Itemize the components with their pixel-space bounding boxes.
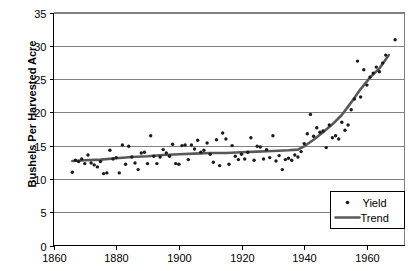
data-point	[325, 146, 328, 149]
data-point	[249, 136, 252, 139]
legend-label-yield: Yield	[363, 197, 387, 209]
data-point	[243, 157, 246, 160]
gridlines-group	[54, 14, 405, 213]
data-point	[111, 157, 114, 160]
data-point	[108, 149, 111, 152]
data-point	[359, 95, 362, 98]
y-tick-group: 05101520253035	[34, 8, 53, 253]
data-point	[346, 123, 349, 126]
data-point	[281, 168, 284, 171]
y-tick-label-20: 20	[34, 107, 46, 119]
data-point	[393, 38, 396, 41]
data-point	[356, 59, 359, 62]
y-tick-label-30: 30	[34, 41, 46, 53]
data-point	[133, 161, 136, 164]
data-point	[240, 153, 243, 156]
data-point	[353, 97, 356, 100]
data-point	[246, 151, 249, 154]
data-point	[152, 155, 155, 158]
data-point	[224, 137, 227, 140]
data-point	[227, 163, 230, 166]
data-point	[212, 161, 215, 164]
data-point	[237, 158, 240, 161]
data-point	[118, 171, 121, 174]
data-point	[143, 151, 146, 154]
data-point	[190, 143, 193, 146]
data-point	[174, 162, 177, 165]
data-point	[312, 135, 315, 138]
data-point	[375, 65, 378, 68]
data-point	[299, 150, 302, 153]
data-point	[158, 155, 161, 158]
data-point	[136, 168, 139, 171]
data-point	[290, 159, 293, 162]
data-point	[180, 144, 183, 147]
data-point	[328, 123, 331, 126]
data-point	[96, 165, 99, 168]
data-point	[268, 156, 271, 159]
data-point	[350, 108, 353, 111]
data-point	[124, 163, 127, 166]
data-point	[102, 172, 105, 175]
data-point	[77, 160, 80, 163]
y-tick-label-15: 15	[34, 141, 46, 153]
data-point	[86, 153, 89, 156]
data-point	[274, 159, 277, 162]
data-point	[74, 159, 77, 162]
data-point	[168, 155, 171, 158]
data-point	[105, 171, 108, 174]
data-point	[381, 61, 384, 64]
data-point	[368, 75, 371, 78]
data-point	[234, 155, 237, 158]
x-tick-group: 186018801900192019401960	[42, 246, 379, 264]
data-point	[271, 134, 274, 137]
data-point	[221, 131, 224, 134]
data-point	[165, 151, 168, 154]
data-point	[171, 143, 174, 146]
data-point	[93, 163, 96, 166]
x-tick-label-1880: 1880	[104, 252, 128, 264]
data-point	[121, 143, 124, 146]
data-point	[277, 154, 280, 157]
data-point	[115, 156, 118, 159]
data-point	[205, 141, 208, 144]
data-point	[140, 151, 143, 154]
x-tick-label-1920: 1920	[230, 252, 254, 264]
data-point	[362, 68, 365, 71]
data-point	[306, 132, 309, 135]
data-point	[321, 129, 324, 132]
data-point	[155, 162, 158, 165]
data-point	[99, 160, 102, 163]
legend-label-trend: Trend	[361, 212, 389, 224]
data-point	[80, 157, 83, 160]
data-point	[372, 71, 375, 74]
x-tick-label-1860: 1860	[42, 252, 66, 264]
data-point	[303, 142, 306, 145]
data-point	[378, 70, 381, 73]
data-point	[177, 163, 180, 166]
data-point	[127, 145, 130, 148]
x-tick-label-1960: 1960	[355, 252, 379, 264]
data-point	[384, 53, 387, 56]
data-point	[265, 148, 268, 151]
data-point	[71, 171, 74, 174]
data-point	[187, 158, 190, 161]
data-point	[89, 161, 92, 164]
data-point	[287, 157, 290, 160]
data-point	[162, 148, 165, 151]
y-tick-label-5: 5	[40, 207, 46, 219]
data-point	[334, 134, 337, 137]
data-point	[309, 113, 312, 116]
data-point	[252, 159, 255, 162]
x-tick-label-1900: 1900	[167, 252, 191, 264]
data-point	[230, 144, 233, 147]
data-point	[199, 151, 202, 154]
chart-legend: YieldTrend	[331, 192, 405, 229]
data-point	[146, 162, 149, 165]
y-tick-label-10: 10	[34, 174, 46, 186]
x-tick-label-1940: 1940	[292, 252, 316, 264]
y-tick-label-35: 35	[34, 8, 46, 20]
data-point	[256, 145, 259, 148]
y-tick-label-25: 25	[34, 74, 46, 86]
data-point	[315, 126, 318, 129]
